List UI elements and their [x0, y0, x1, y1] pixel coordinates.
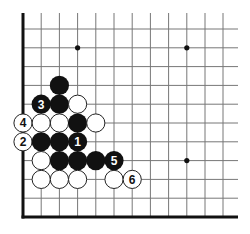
move-number-label: 4	[20, 116, 27, 130]
white-stone-circle	[32, 114, 50, 132]
black-stone	[50, 132, 69, 151]
white-stone	[32, 152, 50, 170]
white-stone: 4	[14, 114, 32, 132]
black-stone-circle	[50, 95, 69, 114]
white-stone	[50, 114, 68, 132]
white-stone-circle	[32, 170, 50, 188]
white-stone-circle	[32, 152, 50, 170]
white-stone	[87, 114, 105, 132]
white-stone: 6	[123, 170, 141, 188]
black-stone: 3	[32, 95, 51, 114]
black-stone	[32, 132, 51, 151]
go-board-diagram: 342156	[0, 0, 250, 234]
black-stone: 5	[104, 151, 123, 170]
star-point	[75, 45, 80, 50]
white-stone-circle	[50, 114, 68, 132]
white-stone	[69, 170, 87, 188]
move-number-label: 1	[74, 135, 81, 149]
black-stone-circle	[68, 151, 87, 170]
move-number-label: 5	[111, 154, 118, 168]
black-stone	[68, 151, 87, 170]
black-stone	[50, 76, 69, 95]
white-stone	[50, 170, 68, 188]
white-stone	[69, 95, 87, 113]
black-stone-circle	[50, 76, 69, 95]
star-point	[184, 158, 189, 163]
black-stone	[50, 151, 69, 170]
black-stone: 1	[68, 132, 87, 151]
star-point	[184, 45, 189, 50]
white-stone	[32, 170, 50, 188]
black-stone	[68, 113, 87, 132]
move-number-label: 2	[20, 135, 27, 149]
black-stone-circle	[50, 132, 69, 151]
white-stone-circle	[50, 170, 68, 188]
black-stone	[50, 95, 69, 114]
black-stone-circle	[50, 151, 69, 170]
black-stone-circle	[86, 151, 105, 170]
black-stone-circle	[32, 132, 51, 151]
white-stone	[105, 170, 123, 188]
move-number-label: 6	[129, 173, 136, 187]
white-stone	[32, 114, 50, 132]
white-stone-circle	[105, 170, 123, 188]
black-stone-circle	[68, 113, 87, 132]
white-stone-circle	[87, 114, 105, 132]
white-stone: 2	[14, 133, 32, 151]
move-number-label: 3	[38, 98, 45, 112]
black-stone	[86, 151, 105, 170]
white-stone-circle	[69, 170, 87, 188]
white-stone-circle	[69, 95, 87, 113]
